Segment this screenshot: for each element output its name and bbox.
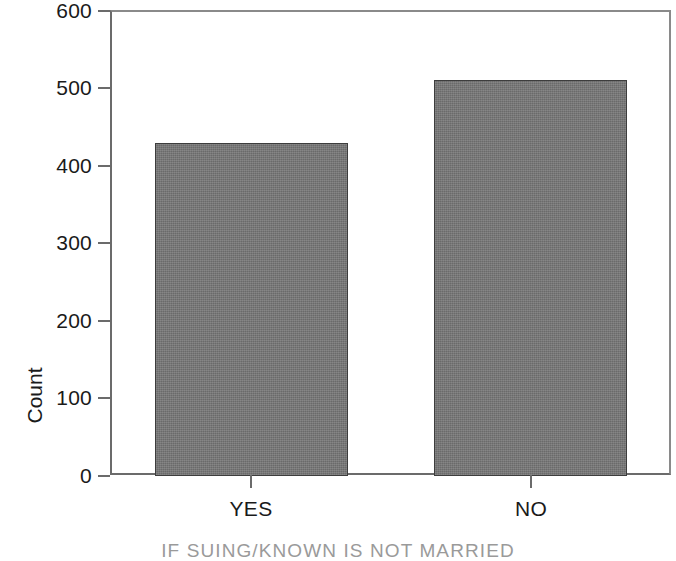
y-tick-label-100: 100 <box>6 387 92 408</box>
y-tick-label-600: 600 <box>6 0 92 21</box>
x-tick-mark-yes <box>250 475 252 488</box>
x-axis-title: IF SUING/KNOWN IS NOT MARRIED <box>0 540 676 561</box>
x-tick-mark-no <box>530 475 532 488</box>
y-tick-mark-500 <box>98 87 110 89</box>
y-axis-title: Count <box>24 336 45 456</box>
y-tick-label-200: 200 <box>6 310 92 331</box>
bar-no <box>434 80 627 476</box>
y-tick-mark-200 <box>98 320 110 322</box>
x-tick-label-yes: YES <box>171 497 331 520</box>
y-tick-label-400: 400 <box>6 155 92 176</box>
y-tick-label-0: 0 <box>6 465 92 486</box>
y-tick-label-300: 300 <box>6 232 92 253</box>
y-tick-mark-400 <box>98 165 110 167</box>
x-tick-label-no: NO <box>451 497 611 520</box>
bar-yes <box>155 143 348 476</box>
y-tick-label-500: 500 <box>6 77 92 98</box>
y-tick-mark-100 <box>98 397 110 399</box>
y-tick-mark-300 <box>98 242 110 244</box>
y-tick-mark-600 <box>98 10 110 12</box>
y-tick-mark-0 <box>98 475 110 477</box>
